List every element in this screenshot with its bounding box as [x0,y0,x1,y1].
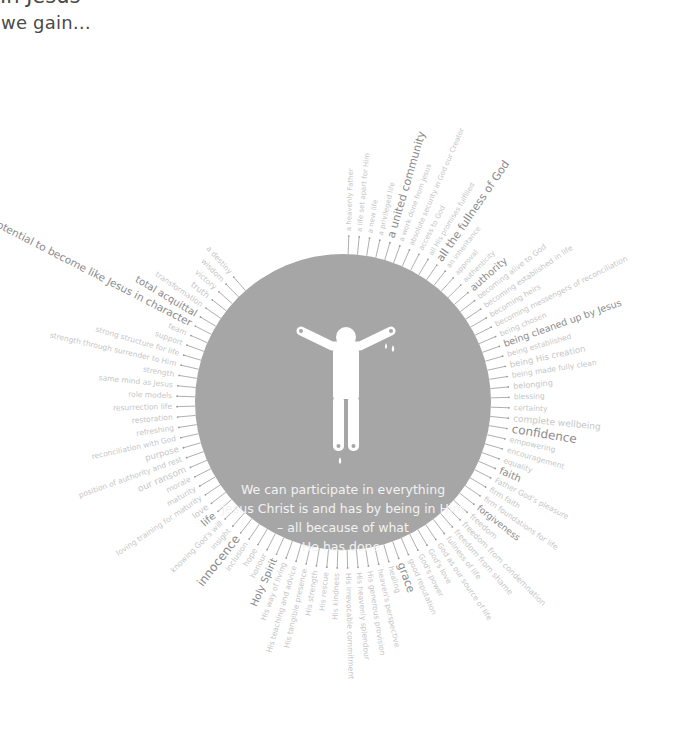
spoke-line [177,396,195,397]
spoke-dot [418,253,420,255]
spoke-dot [494,468,496,470]
spoke-line [181,365,199,369]
spoke-dot [200,316,202,318]
spoke-line [427,265,437,280]
spoke-line [475,327,491,335]
spoke-line [348,236,349,254]
spoke-dot [507,386,509,388]
spoke-dot [367,565,369,567]
spoke-dot [409,249,411,251]
spoke-dot [498,458,500,460]
spoke-line [489,426,507,429]
spoke-dot [485,486,487,488]
spoke-line [376,240,380,258]
spoke-dot [427,259,429,261]
spoke-line [187,345,204,351]
spoke-dot [490,477,492,479]
spoke-line [177,406,195,407]
spoke-dot [225,283,227,285]
spoke-dot [177,416,179,418]
spoke-dot [180,364,182,366]
spoke-dot [194,325,196,327]
spoke-dot [178,426,180,428]
spoke-line [491,407,509,408]
spoke-dot [176,406,178,408]
spoke-dot [474,300,476,302]
benefit-label: role models [128,390,172,401]
spoke-line [219,292,232,304]
spoke-line [367,238,370,256]
spoke-line [402,250,409,266]
spoke-line [394,246,400,263]
spoke-dot [186,457,188,459]
spoke-line [200,317,215,326]
spoke-line [184,355,201,360]
spoke-dot [379,239,381,241]
spoke-dot [498,345,500,347]
spoke-line [206,308,221,318]
spoke-dot [357,566,359,568]
center-message: We can participate in everything Jesus C… [203,480,483,556]
spoke-dot [389,242,391,244]
spoke-line [482,346,499,352]
spoke-line [187,452,204,458]
benefit-label: belonging [513,378,553,391]
spoke-line [357,237,359,255]
spoke-dot [316,565,318,567]
spoke-line [178,386,196,388]
center-message-line: Jesus Christ is and has by being in Him [203,499,483,518]
benefit-label: a heavenly Father [345,168,355,231]
spoke-dot [285,557,287,559]
center-message-line: – all because of what [203,518,483,537]
spoke-dot [436,264,438,266]
benefit-label: resurrection life [113,402,173,413]
spoke-dot [233,276,235,278]
spoke-line [482,453,499,459]
spoke-line [183,443,200,448]
spoke-line [434,271,445,285]
spoke-line [485,444,502,449]
benefit-label: His kindness [330,573,341,621]
spoke-line [385,243,390,260]
spoke-dot [347,567,349,569]
spoke-line [485,356,502,361]
benefit-label: certainty [514,403,548,413]
benefits-wheel-diagram: a heavenly Fathera life set apart for Hi… [0,0,693,738]
spoke-dot [467,292,469,294]
spoke-line [234,277,246,291]
spoke-line [179,375,197,378]
spoke-dot [205,307,207,309]
spoke-dot [358,236,360,238]
spoke-dot [211,299,213,301]
spoke-dot [444,270,446,272]
spoke-dot [218,291,220,293]
spoke-dot [336,567,338,569]
spoke-dot [176,395,178,397]
spoke-dot [348,235,350,237]
spoke-line [490,416,508,418]
spoke-line [491,397,509,398]
spoke-dot [190,335,192,337]
spoke-line [195,469,211,477]
benefit-label: His irrevocable commitment [344,573,356,679]
benefit-label: His rescue [318,571,331,611]
spoke-line [466,309,481,319]
spoke-dot [508,407,510,409]
spoke-dot [501,448,503,450]
spoke-dot [452,277,454,279]
center-message-line: We can participate in everything [203,480,483,499]
spoke-dot [295,560,297,562]
spoke-dot [305,563,307,565]
spoke-line [487,435,505,439]
spoke-dot [508,396,510,398]
spoke-line [448,285,461,298]
spoke-dot [177,385,179,387]
spoke-line [479,461,495,468]
spoke-dot [480,308,482,310]
spoke-dot [506,376,508,378]
spoke-line [226,284,239,297]
spoke-line [460,301,474,312]
center-message-line: He has done. [203,537,483,556]
spoke-line [479,337,496,344]
spoke-line [454,293,468,305]
